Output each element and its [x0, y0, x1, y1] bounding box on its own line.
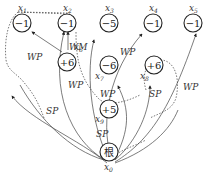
- label-wp-x0-x5: WP: [183, 82, 199, 92]
- svg-text:x2: x2: [63, 3, 72, 14]
- tree-diagram: −1 x1 −1 x2 −5 x3 −1 x4 −1 x5 +6 x6 −6 x…: [0, 0, 210, 177]
- label-wp-x0-x4: WP: [120, 47, 136, 57]
- svg-text:+6: +6: [60, 57, 75, 68]
- svg-text:−1: −1: [186, 18, 201, 29]
- node-x8: +6 x8: [140, 56, 163, 82]
- svg-text:−5: −5: [102, 18, 117, 29]
- node-x4: −1 x4: [144, 3, 162, 32]
- edge-x6-x1: [32, 32, 62, 52]
- svg-text:+6: +6: [147, 60, 162, 71]
- svg-text:x1: x1: [18, 3, 27, 14]
- node-x2: −1 x2: [58, 3, 76, 32]
- svg-text:x7: x7: [95, 71, 104, 82]
- node-x7: −6 x7: [95, 56, 118, 82]
- label-wm-x6-x2: WM: [69, 42, 88, 52]
- node-x5: −1 x5: [184, 3, 202, 32]
- svg-text:根: 根: [104, 146, 114, 158]
- label-wp-x6-x1: WP: [27, 52, 43, 62]
- label-sp-x9: SP: [96, 129, 109, 139]
- label-wp-x0-x2: WP: [68, 80, 84, 90]
- svg-text:x4: x4: [149, 3, 158, 14]
- label-sp-left: SP: [46, 106, 59, 116]
- svg-text:+5: +5: [102, 104, 117, 115]
- edge-x0-right: [115, 110, 178, 163]
- svg-text:−1: −1: [15, 18, 30, 29]
- node-x3: −5 x3: [100, 3, 118, 32]
- node-x1: −1 x1: [13, 3, 31, 32]
- svg-text:x5: x5: [189, 3, 198, 14]
- node-x0-root: 根 x0: [100, 143, 118, 173]
- svg-text:x0: x0: [104, 162, 113, 173]
- svg-text:−1: −1: [146, 18, 161, 29]
- svg-text:−6: −6: [102, 60, 117, 71]
- label-wp-x0-x7: WP: [100, 89, 116, 99]
- svg-text:−1: −1: [60, 18, 75, 29]
- svg-text:x3: x3: [105, 3, 114, 14]
- svg-text:x8: x8: [140, 71, 149, 82]
- label-sp-x8: SP: [149, 89, 162, 99]
